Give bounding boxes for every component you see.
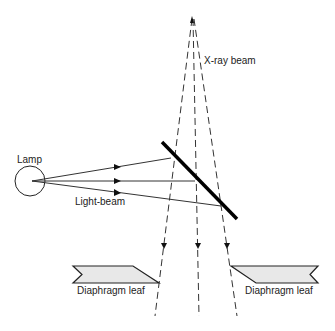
diaphragm-leaf-right-label: Diaphragm leaf — [245, 285, 313, 296]
lamp-label: Lamp — [17, 154, 42, 165]
xray-beam-label: X-ray beam — [204, 55, 256, 66]
light-beam-label: Light-beam — [75, 196, 125, 207]
diaphragm-leaf-left-label: Diaphragm leaf — [77, 285, 145, 296]
diaphragm-leaf-right — [231, 266, 318, 283]
light-arrows — [114, 164, 121, 196]
xray-arrows — [161, 243, 230, 249]
diagram-canvas — [0, 0, 335, 331]
xray-line-center — [193, 19, 199, 316]
light-beam — [32, 158, 221, 206]
diaphragm-leaf-left — [73, 266, 159, 283]
